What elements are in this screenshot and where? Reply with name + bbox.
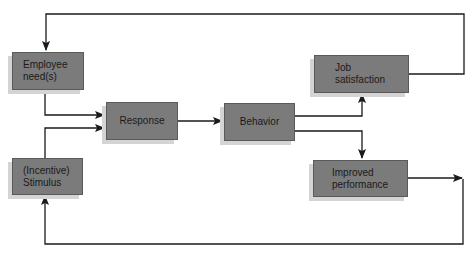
node-behavior-label: Behavior	[240, 116, 279, 128]
node-stimulus-label: (Incentive) Stimulus	[23, 165, 70, 189]
node-employee-needs: Employee need(s)	[12, 52, 84, 90]
arrow-behavior-to-job-satisfaction	[294, 94, 362, 116]
arrow-behavior-to-performance	[294, 131, 362, 158]
node-response-label: Response	[119, 115, 164, 127]
arrow-needs-to-response	[45, 90, 104, 115]
node-job-satisfaction: Job satisfaction	[314, 55, 409, 93]
node-stimulus: (Incentive) Stimulus	[12, 158, 83, 195]
node-job-satisfaction-label: Job satisfaction	[335, 62, 385, 86]
node-response: Response	[106, 102, 178, 140]
node-employee-needs-label: Employee need(s)	[23, 59, 67, 83]
node-behavior: Behavior	[224, 103, 295, 141]
node-improved-performance-label: Improved performance	[332, 167, 388, 191]
node-improved-performance: Improved performance	[313, 160, 408, 197]
arrow-stimulus-to-response	[45, 128, 104, 158]
